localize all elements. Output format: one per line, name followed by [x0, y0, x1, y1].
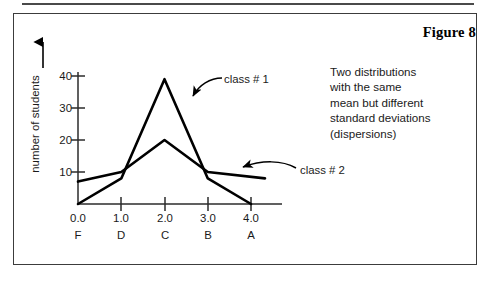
callout-arrow-class-2 [243, 162, 296, 168]
plot-canvas [0, 0, 490, 281]
series-line-class-2 [78, 140, 265, 182]
figure-page: Figure 8 Two distributions with the same… [0, 0, 490, 281]
callout-arrow-class-1 [193, 78, 222, 96]
